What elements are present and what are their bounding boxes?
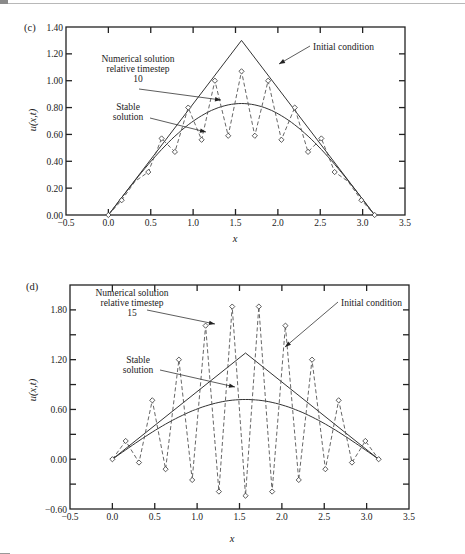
x-tick-label: 1.5 — [234, 512, 246, 522]
annotation-text: 10 — [133, 74, 143, 84]
data-point-diamond — [323, 467, 328, 472]
data-point-diamond — [203, 323, 208, 328]
y-tick-label: 1.00 — [46, 76, 63, 86]
y-axis-label: u(x,t) — [27, 108, 39, 131]
data-point-diamond — [212, 78, 217, 83]
y-tick-label: 1.20 — [50, 355, 67, 365]
x-tick-label: 0.5 — [145, 218, 157, 228]
x-tick-label: 0.5 — [149, 512, 161, 522]
data-point-diamond — [309, 357, 314, 362]
x-tick-label: 1.5 — [230, 218, 242, 228]
y-tick-label: 0.60 — [50, 405, 67, 415]
data-point-diamond — [163, 467, 168, 472]
data-point-diamond — [256, 304, 261, 309]
series-stable-solution — [108, 104, 374, 216]
annotation-text: Numerical solution — [101, 54, 174, 64]
y-tick-label: 0.00 — [50, 455, 67, 465]
panel-label: (d) — [26, 281, 39, 293]
data-point-diamond — [292, 105, 297, 110]
data-point-diamond — [266, 78, 271, 83]
data-point-diamond — [336, 398, 341, 403]
panel-label: (c) — [24, 22, 36, 34]
data-point-diamond — [199, 137, 204, 142]
annotation-arrowhead — [279, 59, 285, 64]
x-tick-label: 3.0 — [361, 512, 373, 522]
data-point-diamond — [349, 460, 354, 465]
y-axis-label: u(x,t) — [27, 378, 39, 401]
x-tick-label: 2.0 — [272, 218, 284, 228]
annotation-arrow-line — [150, 118, 206, 132]
data-point-diamond — [296, 477, 301, 482]
data-point-diamond — [136, 460, 141, 465]
data-point-diamond — [332, 169, 337, 174]
annotation-text: solution — [113, 112, 144, 122]
x-tick-label: 1.0 — [191, 512, 203, 522]
annotation-text: Initial condition — [341, 298, 402, 308]
annotation-arrowhead — [209, 321, 215, 325]
x-tick-label: 0.0 — [102, 218, 114, 228]
x-tick-label: 2.5 — [318, 512, 330, 522]
y-tick-label: 1.20 — [46, 49, 63, 59]
data-point-diamond — [216, 489, 221, 494]
chart-panel-c: −0.50.00.51.01.52.02.53.03.50.000.200.40… — [24, 22, 411, 244]
y-tick-label: 1.80 — [50, 305, 67, 315]
series-stable-solution — [112, 400, 378, 460]
annotation-text: 15 — [127, 308, 137, 318]
chart-panel-d: −0.50.00.51.01.52.02.53.03.5−0.600.000.6… — [26, 281, 415, 544]
data-point-diamond — [150, 398, 155, 403]
annotation-text: Stable — [126, 355, 150, 365]
data-point-diamond — [279, 137, 284, 142]
data-point-diamond — [176, 357, 181, 362]
y-tick-label: 0.20 — [46, 184, 63, 194]
x-tick-label: 2.5 — [314, 218, 326, 228]
annotation-text: relative timestep — [100, 298, 163, 308]
annotation-arrow-line — [139, 89, 221, 100]
annotation-arrow-line — [160, 370, 235, 387]
x-tick-label: 1.0 — [187, 218, 199, 228]
plot-frame — [70, 285, 409, 509]
data-point-diamond — [270, 489, 275, 494]
y-tick-label: 0.40 — [46, 157, 63, 167]
series-numerical-solution-relative-timestep-10 — [108, 71, 374, 215]
data-point-diamond — [226, 133, 231, 138]
y-tick-label: 1.40 — [46, 23, 63, 33]
annotation-arrow-line — [147, 310, 215, 324]
x-tick-label: 2.0 — [276, 512, 288, 522]
y-tick-label: 0.00 — [46, 211, 63, 221]
data-point-diamond — [190, 477, 195, 482]
annotation-text: Numerical solution — [95, 288, 168, 298]
x-tick-label: 3.5 — [403, 512, 415, 522]
x-tick-label: 3.5 — [399, 218, 411, 228]
data-point-diamond — [239, 69, 244, 74]
annotation-text: Stable — [116, 102, 140, 112]
x-tick-label: 0.0 — [106, 512, 118, 522]
y-tick-label: 0.60 — [46, 130, 63, 140]
y-tick-label: −0.60 — [45, 505, 67, 515]
x-tick-label: 3.0 — [357, 218, 369, 228]
data-point-diamond — [283, 323, 288, 328]
data-point-diamond — [252, 133, 257, 138]
annotation-text: Initial condition — [313, 42, 374, 52]
data-point-diamond — [230, 304, 235, 309]
data-point-diamond — [359, 198, 364, 203]
annotation-text: relative timestep — [106, 64, 169, 74]
y-tick-label: 0.80 — [46, 103, 63, 113]
annotation-arrow-line — [285, 302, 338, 347]
x-axis-label: x — [232, 233, 238, 244]
data-point-diamond — [186, 105, 191, 110]
annotation-arrowhead — [200, 128, 206, 132]
data-point-diamond — [243, 493, 248, 498]
data-point-diamond — [146, 169, 151, 174]
x-axis-label: x — [229, 533, 235, 544]
figure: −0.50.00.51.01.52.02.53.03.50.000.200.40… — [0, 0, 465, 554]
annotation-text: solution — [123, 365, 154, 375]
